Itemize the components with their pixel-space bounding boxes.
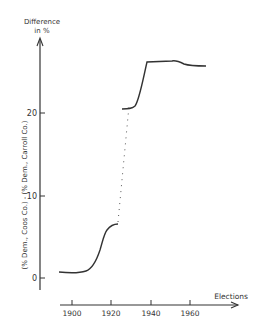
- series-connector-dotted: [118, 106, 129, 222]
- x-tick-label: 1900: [62, 309, 81, 318]
- y-tick-label: 0: [32, 274, 37, 283]
- chart-canvas: 0 10 20 Difference in % (% Dem., Coos Co…: [0, 0, 266, 335]
- x-tick-label: 1940: [141, 309, 160, 318]
- x-axis-title: Elections: [214, 292, 248, 301]
- y-axis-title-line1: Difference: [24, 18, 60, 26]
- y-axis-title-line2: in %: [34, 27, 50, 35]
- y-axis-side-label: (% Dem., Coos Co.) - (% Dem., Carroll Co…: [21, 120, 29, 269]
- x-tick-label: 1920: [101, 309, 120, 318]
- x-tick-label: 1960: [180, 309, 199, 318]
- y-tick-label: 20: [27, 109, 37, 118]
- series-segment-1: [59, 224, 118, 273]
- series-segment-2: [122, 61, 206, 109]
